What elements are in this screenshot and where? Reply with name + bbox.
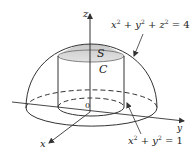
x-axis-label: x [40,139,46,149]
origin-label: 0 [85,102,90,110]
y-axis-label: y [177,124,182,133]
z-axis-label: z [83,9,88,19]
sphere-equation-label: x2 + y2 + z2 = 4 [111,20,190,30]
cap-surface-s [58,44,124,62]
x-axis [49,112,90,143]
cylinder-base-back [58,98,124,107]
cylinder-pointer-arrow [127,103,141,134]
cylinder-equation-label: x2 + y2 = 1 [128,136,183,146]
curve-label-c: C [99,64,107,75]
surface-label-s: S [97,48,105,59]
sphere-pointer-arrow [134,34,143,56]
hemisphere-diagram: z S C 0 y x x2 + y2 + z2 = 4 x2 + y2 = 1 [0,0,191,161]
